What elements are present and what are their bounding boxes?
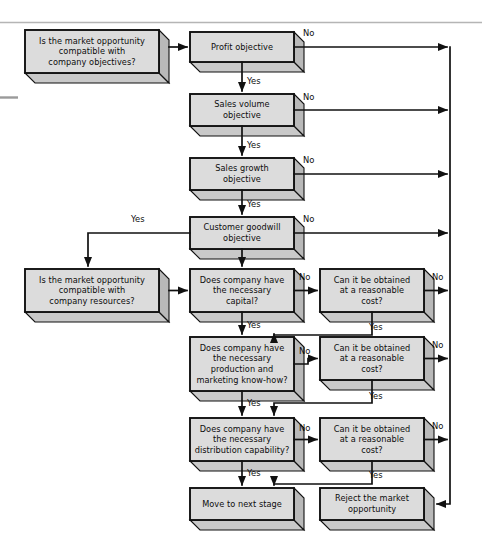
edge-label-no-salesgrowth: No xyxy=(303,155,315,165)
edge-label-no-salesvol: No xyxy=(303,92,315,102)
node-distribution xyxy=(190,418,304,471)
edge-label-no-production: No xyxy=(299,346,311,356)
edge-label-yes-salesvol: Yes xyxy=(247,140,261,150)
edge-yes-goodwill-to-resources xyxy=(88,233,190,266)
node-cost3 xyxy=(320,418,434,471)
edge-label-no-cost1: No xyxy=(432,272,444,282)
node-salesgrowth xyxy=(190,158,304,200)
edge-label-yes-distribution: Yes xyxy=(247,468,261,478)
edge-label-no-cost2: No xyxy=(432,340,444,350)
edge-label-yes-cost2: Yes xyxy=(369,391,383,401)
edge-label-yes-cost1: Yes xyxy=(369,322,383,332)
edge-label-no-profit: No xyxy=(303,28,315,38)
edge-label-yes-capital: Yes xyxy=(247,320,261,330)
node-objectives xyxy=(25,30,169,83)
node-resources xyxy=(25,269,169,322)
edge-label-no-goodwill: No xyxy=(303,214,315,224)
edge-label-no-distribution: No xyxy=(299,423,311,433)
node-reject xyxy=(320,488,434,530)
node-shapes-layer xyxy=(25,30,434,530)
node-production xyxy=(190,337,304,401)
edge-label-yes-salesgrowth: Yes xyxy=(247,199,261,209)
node-cost1 xyxy=(320,269,434,322)
flowchart-canvas: Is the market opportunity compatible wit… xyxy=(0,0,482,549)
flowchart-graphics xyxy=(0,0,482,549)
node-capital xyxy=(190,269,304,322)
edge-label-yes-production: Yes xyxy=(247,398,261,408)
edge-label-yes-profit: Yes xyxy=(247,76,261,86)
node-profit xyxy=(190,32,304,72)
node-cost2 xyxy=(320,337,434,390)
edge-label-no-capital: No xyxy=(299,272,311,282)
node-goodwill xyxy=(190,217,304,259)
node-nextstage xyxy=(190,488,304,530)
edge-label-no-cost3: No xyxy=(432,421,444,431)
edge-label-yes-cost3: Yes xyxy=(369,470,383,480)
node-salesvol xyxy=(190,94,304,136)
edge-label-yes-goodwill: Yes xyxy=(131,214,145,224)
